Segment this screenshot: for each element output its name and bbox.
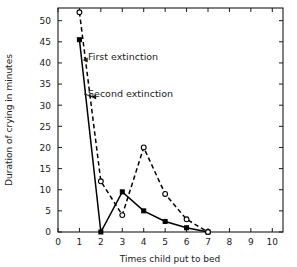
- data-point-marker: [77, 10, 82, 15]
- x-tick-label: 3: [119, 237, 125, 247]
- series-annotations: First extinctionSecond extinction: [83, 51, 173, 100]
- y-tick-label: 30: [40, 101, 52, 111]
- data-point-marker: [185, 226, 189, 230]
- data-point-marker: [98, 179, 103, 184]
- x-tick-label: 2: [98, 237, 104, 247]
- y-tick-label: 20: [40, 143, 52, 153]
- x-tick-label: 1: [77, 237, 83, 247]
- y-tick-label: 45: [40, 37, 51, 47]
- y-tick-label: 15: [40, 164, 51, 174]
- y-tick-label: 0: [45, 227, 51, 237]
- data-point-marker: [120, 213, 125, 218]
- annotation-label-second-extinction: Second extinction: [88, 88, 173, 99]
- x-tick-label: 7: [205, 237, 211, 247]
- x-axis-title: Times child put to bed: [119, 254, 220, 264]
- plot-frame-box: [58, 8, 283, 232]
- data-point-marker: [120, 190, 124, 194]
- x-axis-tick-labels: 012345678910: [55, 237, 278, 247]
- x-tick-label: 0: [55, 237, 61, 247]
- data-point-marker: [99, 230, 103, 234]
- figure-container: 012345678910 05101520253035404550 Times …: [0, 0, 297, 267]
- x-tick-label: 10: [267, 237, 279, 247]
- x-axis-ticks: [58, 8, 272, 232]
- y-axis-tick-labels: 05101520253035404550: [40, 16, 52, 237]
- data-point-marker: [141, 145, 146, 150]
- y-tick-label: 10: [40, 185, 52, 195]
- x-tick-label: 6: [184, 237, 190, 247]
- x-tick-label: 8: [227, 237, 233, 247]
- y-tick-label: 25: [40, 122, 51, 132]
- series-line-second-extinction: [79, 12, 208, 232]
- data-point-marker: [206, 230, 211, 235]
- x-tick-label: 5: [162, 237, 168, 247]
- series-line-first-extinction: [79, 40, 208, 232]
- series-lines: [79, 12, 208, 232]
- plot-frame: [58, 8, 283, 232]
- y-tick-label: 5: [45, 206, 51, 216]
- annotation-label-first-extinction: First extinction: [88, 51, 158, 62]
- y-axis-title: Duration of crying in minutes: [4, 54, 14, 186]
- data-point-marker: [142, 209, 146, 213]
- y-tick-label: 50: [40, 16, 52, 26]
- y-tick-label: 40: [40, 58, 52, 68]
- data-point-marker: [77, 38, 81, 42]
- data-point-marker: [163, 192, 168, 197]
- data-point-marker: [163, 219, 167, 223]
- x-tick-label: 9: [248, 237, 254, 247]
- x-tick-label: 4: [141, 237, 147, 247]
- y-tick-label: 35: [40, 79, 51, 89]
- line-chart: 012345678910 05101520253035404550 Times …: [0, 0, 297, 267]
- data-point-marker: [184, 217, 189, 222]
